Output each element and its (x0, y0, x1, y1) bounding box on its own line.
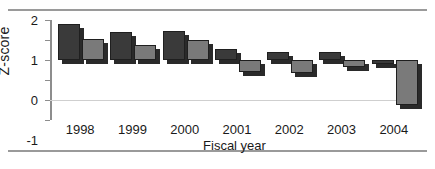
bar-series-2-1999[interactable] (134, 45, 156, 60)
bar-series-1-2001[interactable] (215, 49, 237, 60)
bar-body (343, 60, 365, 67)
bar-body (163, 31, 185, 60)
bar-body (187, 40, 209, 60)
bar-series-1-1999[interactable] (110, 32, 132, 60)
plot-area: 210-1-2-3 (50, 20, 418, 120)
bar-series-2-1998[interactable] (82, 39, 104, 60)
bar-body (82, 39, 104, 60)
bar-series-2-2002[interactable] (291, 60, 313, 73)
y-tick: 1 (45, 40, 50, 41)
y-tick-label: 2 (31, 14, 38, 27)
bar-body (215, 49, 237, 60)
bar-series-1-2003[interactable] (319, 52, 341, 60)
bar-group (366, 20, 418, 120)
x-tick-label-2001: 2001 (223, 122, 252, 137)
x-tick-label-1998: 1998 (66, 122, 95, 137)
y-tick-label: 0 (31, 94, 38, 107)
bar-series-2-2000[interactable] (187, 40, 209, 60)
bar-series-1-2000[interactable] (163, 31, 185, 60)
bar-shadow (376, 64, 398, 68)
bar-series-2-2003[interactable] (343, 60, 365, 67)
x-axis-title: Fiscal year (203, 138, 266, 153)
y-tick: -3 (45, 120, 50, 121)
x-tick-label-2002: 2002 (275, 122, 304, 137)
bar-series-container (52, 20, 418, 120)
bar-group (104, 20, 156, 120)
y-axis-title: Z-score (0, 8, 14, 94)
y-tick: 2 (45, 20, 50, 21)
bar-series-2-2001[interactable] (239, 60, 261, 72)
bar-series-1-2004[interactable] (372, 60, 394, 64)
top-divider (8, 9, 427, 11)
bar-series-1-1998[interactable] (58, 24, 80, 60)
bar-series-2-2004[interactable] (396, 60, 418, 105)
bar-group (209, 20, 261, 120)
bar-body (372, 60, 394, 64)
y-tick: -1 (45, 80, 50, 81)
bar-body (58, 24, 80, 60)
bar-group (313, 20, 365, 120)
x-tick-label-2000: 2000 (170, 122, 199, 137)
x-tick-label-2003: 2003 (327, 122, 356, 137)
bar-group (52, 20, 104, 120)
x-tick-label-2004: 2004 (379, 122, 408, 137)
x-axis-title-wrap: Fiscal year (0, 138, 435, 153)
bar-body (239, 60, 261, 72)
bar-series-1-2002[interactable] (267, 52, 289, 60)
bar-body (396, 60, 418, 105)
y-tick: -2 (45, 100, 50, 101)
y-tick-label: 1 (31, 54, 38, 67)
bar-group (157, 20, 209, 120)
bar-group (261, 20, 313, 120)
bar-body (319, 52, 341, 60)
y-tick: 0 (45, 60, 50, 61)
y-axis-title-wrap: Z-score (6, 30, 24, 94)
bar-body (291, 60, 313, 73)
bar-body (267, 52, 289, 60)
bar-body (134, 45, 156, 60)
x-tick-label-1999: 1999 (118, 122, 147, 137)
chart-figure: Z-score 210-1-2-3 1998199920002001200220… (0, 0, 435, 169)
bar-body (110, 32, 132, 60)
